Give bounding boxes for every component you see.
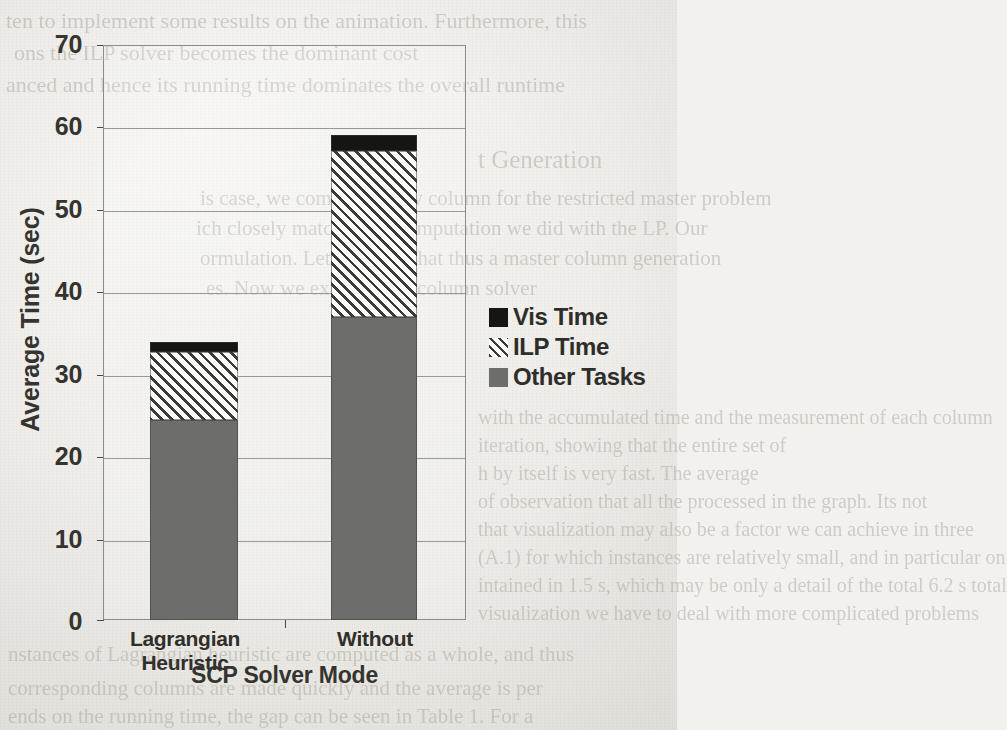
bar-segment-ilp-time[interactable] xyxy=(150,352,238,420)
bar-segment-other-tasks[interactable] xyxy=(331,317,417,620)
legend-label-other-tasks: Other Tasks xyxy=(513,363,646,391)
bar-segment-vis-time[interactable] xyxy=(331,135,417,151)
x-tick-label-without: Without xyxy=(285,627,465,651)
legend-item-vis-time[interactable]: Vis Time xyxy=(489,302,646,332)
y-tick-label-70: 70 xyxy=(22,30,82,59)
legend-swatch-icon-ilp-time xyxy=(489,338,508,357)
plot-area xyxy=(103,45,466,620)
bar-segment-vis-time[interactable] xyxy=(150,342,238,352)
legend-item-ilp-time[interactable]: ILP Time xyxy=(489,332,646,362)
y-tick-mark xyxy=(97,620,104,621)
gridline-60 xyxy=(104,128,465,129)
bar-segment-ilp-time[interactable] xyxy=(331,151,417,317)
y-tick-label-0: 0 xyxy=(22,607,82,636)
y-tick-label-10: 10 xyxy=(22,525,82,554)
y-tick-label-60: 60 xyxy=(22,112,82,141)
legend-swatch-icon-other-tasks xyxy=(489,368,508,387)
legend-swatch-icon-vis-time xyxy=(489,308,508,327)
legend-label-ilp-time: ILP Time xyxy=(513,333,609,361)
y-axis-title: Average Time (sec) xyxy=(16,160,45,480)
x-axis-title: SCP Solver Mode xyxy=(103,662,466,689)
chart-legend: Vis Time ILP Time Other Tasks xyxy=(489,302,646,392)
legend-label-vis-time: Vis Time xyxy=(513,303,608,331)
legend-item-other-tasks[interactable]: Other Tasks xyxy=(489,362,646,392)
bar-segment-other-tasks[interactable] xyxy=(150,420,238,620)
